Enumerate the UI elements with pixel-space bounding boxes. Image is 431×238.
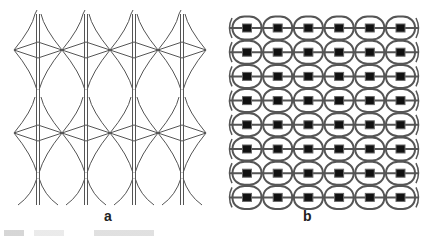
caption-fragment (4, 230, 194, 236)
figure-canvas (0, 0, 431, 238)
panel-a-star-lattice (14, 10, 206, 205)
panel-b-label: b (303, 208, 312, 224)
panel-a-label: a (104, 208, 112, 224)
panel-b-circle-grid (229, 17, 419, 209)
